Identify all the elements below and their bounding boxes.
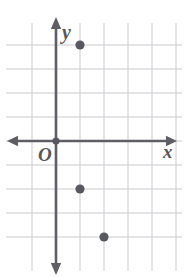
data-point — [75, 40, 84, 49]
data-point — [99, 232, 108, 241]
coordinate-plane-figure: y x O — [0, 0, 185, 277]
x-axis-left-arrowhead — [7, 136, 18, 146]
y-axis-down-arrowhead — [51, 263, 61, 275]
y-axis-up-arrowhead — [51, 17, 61, 29]
coordinate-plane-canvas — [0, 0, 185, 277]
origin-point — [52, 137, 59, 144]
x-axis-label: x — [163, 142, 173, 161]
origin-label: O — [38, 145, 52, 164]
y-axis-label: y — [62, 22, 71, 42]
data-point — [75, 184, 84, 193]
